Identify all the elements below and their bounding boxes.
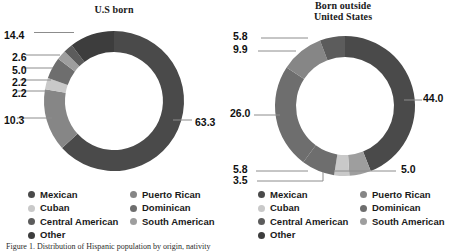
- legend-item-puerto-rican[interactable]: Puerto Rican: [360, 188, 445, 201]
- legend-item-south-american[interactable]: South American: [130, 215, 215, 228]
- legend-label-south-american: South American: [142, 217, 215, 227]
- figure-caption: Figure 1. Distribution of Hispanic popul…: [6, 242, 453, 251]
- legend-swatch-mexican-icon: [258, 191, 265, 198]
- legend-swatch-cuban-icon: [28, 205, 35, 212]
- value-label-44-0: 44.0: [423, 93, 443, 104]
- legend-swatch-south-american-icon: [360, 218, 367, 225]
- legend-item-mexican[interactable]: Mexican: [28, 188, 118, 201]
- value-label-63-3: 63.3: [195, 117, 215, 128]
- value-label-10-3: 10.3: [4, 115, 24, 126]
- legend-label-dominican: Dominican: [372, 203, 421, 213]
- donut-svg-us-born: [41, 28, 187, 174]
- legend-column-two: Puerto Rican Dominican South American: [130, 188, 215, 229]
- legend-label-other: Other: [40, 230, 65, 240]
- value-label-26-0: 26.0: [230, 108, 250, 119]
- donut-us-born: [41, 28, 187, 174]
- legend-swatch-south-american-icon: [130, 218, 137, 225]
- value-label-3-5: 3.5: [233, 175, 248, 186]
- legend-swatch-central-american-icon: [258, 218, 265, 225]
- legend-us-born: Mexican Cuban Central American Other Pue…: [28, 188, 228, 244]
- legend-item-mexican[interactable]: Mexican: [258, 188, 348, 201]
- legend-label-other: Other: [270, 230, 295, 240]
- legend-label-cuban: Cuban: [270, 203, 300, 213]
- chart-panel-born-outside-us: Born outside United States: [229, 0, 457, 180]
- legend-label-south-american: South American: [372, 217, 445, 227]
- value-label-5-0: 5.0: [12, 65, 27, 76]
- legend-born-outside-us: Mexican Cuban Central American Other Pue…: [258, 188, 457, 244]
- legend-item-central-american[interactable]: Central American: [28, 215, 118, 228]
- legend-label-puerto-rican: Puerto Rican: [142, 190, 201, 200]
- legend-column-one: Mexican Cuban Central American Other: [28, 188, 118, 242]
- legend-label-mexican: Mexican: [270, 190, 308, 200]
- legend-column-two: Puerto Rican Dominican South American: [360, 188, 445, 229]
- chart-title-born-outside-us: Born outside United States: [229, 1, 457, 22]
- legend-swatch-other-icon: [28, 232, 35, 239]
- value-label-14-4: 14.4: [4, 30, 24, 41]
- donut-born-outside-us: [272, 33, 418, 179]
- value-label-2-2-b: 2.2: [12, 88, 27, 99]
- donut-chart-pair: U.S born: [0, 0, 457, 180]
- legend-swatch-puerto-rican-icon: [130, 191, 137, 198]
- chart-panel-us-born: U.S born: [0, 0, 228, 180]
- legend-swatch-other-icon: [258, 232, 265, 239]
- legend-label-central-american: Central American: [270, 217, 348, 227]
- legend-item-other[interactable]: Other: [28, 229, 118, 242]
- donut-svg-born-outside-us: [272, 33, 418, 179]
- chart-title-line-1: Born outside: [229, 1, 457, 12]
- legend-item-cuban[interactable]: Cuban: [28, 202, 118, 215]
- legend-label-mexican: Mexican: [40, 190, 78, 200]
- value-label-5-8-top: 5.8: [233, 31, 248, 42]
- legend-column-one: Mexican Cuban Central American Other: [258, 188, 348, 242]
- legend-swatch-mexican-icon: [28, 191, 35, 198]
- value-label-9-9: 9.9: [233, 44, 248, 55]
- legend-item-puerto-rican[interactable]: Puerto Rican: [130, 188, 215, 201]
- legend-swatch-puerto-rican-icon: [360, 191, 367, 198]
- legend-swatch-dominican-icon: [360, 205, 367, 212]
- legend-label-puerto-rican: Puerto Rican: [372, 190, 431, 200]
- legend-item-south-american[interactable]: South American: [360, 215, 445, 228]
- chart-title-us-born: U.S born: [0, 5, 228, 16]
- donut-slice-mexican: [345, 36, 415, 171]
- legend-item-dominican[interactable]: Dominican: [130, 202, 215, 215]
- legend-label-central-american: Central American: [40, 217, 118, 227]
- legend-item-dominican[interactable]: Dominican: [360, 202, 445, 215]
- legend-item-cuban[interactable]: Cuban: [258, 202, 348, 215]
- legend-item-central-american[interactable]: Central American: [258, 215, 348, 228]
- value-label-5-0: 5.0: [401, 164, 416, 175]
- legend-label-cuban: Cuban: [40, 203, 70, 213]
- legend-swatch-central-american-icon: [28, 218, 35, 225]
- legend-swatch-cuban-icon: [258, 205, 265, 212]
- legend-swatch-dominican-icon: [130, 205, 137, 212]
- legend-item-other[interactable]: Other: [258, 229, 348, 242]
- legend-label-dominican: Dominican: [142, 203, 191, 213]
- donut-slice-dominican: [275, 67, 316, 162]
- chart-title-line-2: United States: [229, 12, 457, 23]
- value-label-2-6: 2.6: [12, 52, 27, 63]
